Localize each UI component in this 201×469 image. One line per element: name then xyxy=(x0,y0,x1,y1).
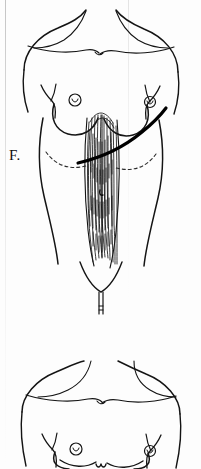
shoulder-outline-right xyxy=(116,10,178,72)
areola-left-2 xyxy=(70,443,82,455)
costal-margin-left xyxy=(46,152,86,167)
torso-outline-left xyxy=(39,118,58,264)
clavicle-line-left-2 xyxy=(26,395,102,402)
shoulder-outline-right-2 xyxy=(118,361,180,414)
clavicle-line-right-2 xyxy=(102,396,176,403)
arm-outline-left xyxy=(23,70,28,112)
arm-outline-left-2 xyxy=(21,412,26,466)
anatomical-figure-svg xyxy=(0,0,201,469)
axillary-fold-left-inner xyxy=(51,84,56,101)
breast-underline-right-2 xyxy=(107,461,143,467)
panel-label-f: F. xyxy=(9,148,21,163)
trapezius-line-left xyxy=(34,11,86,48)
torso-outline-right xyxy=(144,120,163,266)
axillary-fold-right-inner-2 xyxy=(146,434,151,451)
clavicle-line-left xyxy=(28,46,99,53)
costal-margin-right xyxy=(116,154,156,169)
trapezius-line-left-2 xyxy=(38,361,91,397)
arm-outline-right xyxy=(174,72,179,114)
panel-f-figure xyxy=(23,10,179,314)
panel-next-figure xyxy=(21,361,181,469)
breast-underline-left-2 xyxy=(60,460,96,466)
illustration-page: F. xyxy=(0,0,201,469)
sternum-detail-2 xyxy=(96,464,106,467)
areola-left xyxy=(69,94,81,106)
axillary-fold-left-inner-2 xyxy=(52,433,57,450)
arm-outline-right-2 xyxy=(176,414,181,468)
shoulder-outline-left xyxy=(24,10,86,70)
inguinal-crease-right xyxy=(101,262,122,292)
inguinal-crease-left xyxy=(80,262,101,292)
trapezius-line-right xyxy=(116,11,168,48)
